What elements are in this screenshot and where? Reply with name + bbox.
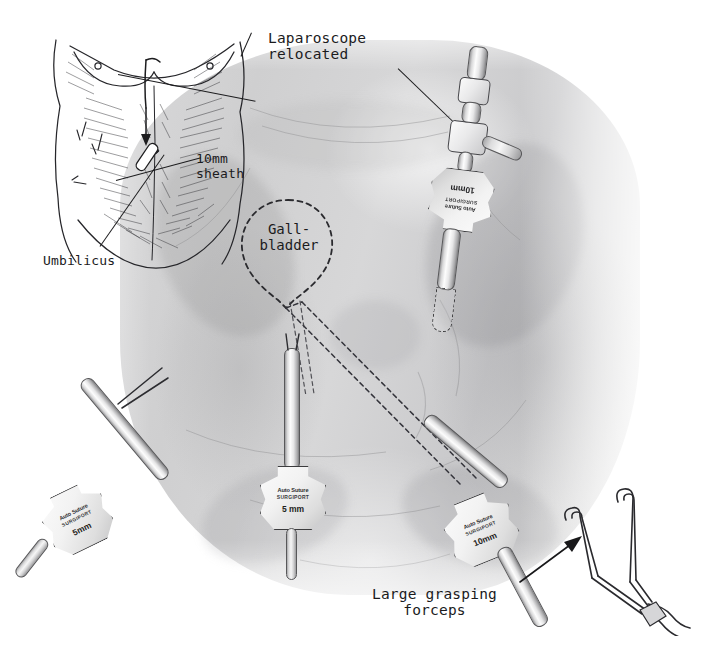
- label-10mm-sheath: 10mm sheath: [196, 152, 244, 181]
- left-instrument-jaws: [110, 362, 180, 412]
- laparoscope-eyepiece: [466, 45, 489, 81]
- arrow-to-forceps: [516, 528, 594, 588]
- lower-right-instrument-shaft: [421, 412, 511, 491]
- trocar-size-lower-right: 10mm: [472, 531, 498, 548]
- left-lateral-cannula: [13, 536, 51, 580]
- label-laparoscope-relocated: Laparoscope relocated: [268, 30, 366, 62]
- light-cable-post: [480, 134, 524, 162]
- midline-instrument-shaft: [284, 348, 300, 470]
- midline-instrument-jaws: [280, 332, 310, 354]
- trocar-size-upper-right: 10mm: [450, 183, 475, 194]
- upper-right-trocar-hub: Auto Suture SURGIPORT 10mm: [426, 166, 497, 235]
- trocar-model-midline: SURGIPORT: [277, 495, 309, 500]
- midline-trocar: Auto Suture SURGIPORT 5 mm: [256, 336, 340, 586]
- trocar-size-left: 5mm: [71, 521, 93, 537]
- label-gallbladder: Gall- bladder: [250, 222, 328, 254]
- left-lateral-trocar: Auto Suture SURGIPORT 5mm: [18, 372, 188, 592]
- midline-cannula: [286, 528, 297, 580]
- label-umbilicus: Umbilicus: [43, 254, 115, 269]
- label-large-grasping-forceps: Large grasping forceps: [372, 586, 497, 618]
- upper-right-cannula: [436, 227, 461, 291]
- midline-trocar-hub: Auto Suture SURGIPORT 5 mm: [260, 466, 326, 530]
- trocar-size-midline: 5 mm: [282, 505, 304, 514]
- illustration-canvas: 10mm sheath Umbilicus Laparoscope reloca…: [0, 0, 702, 655]
